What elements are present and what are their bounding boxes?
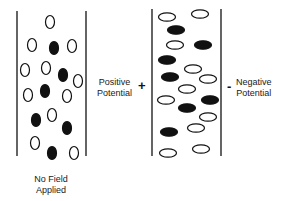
- open-particle-icon: [179, 85, 196, 93]
- open-particle-icon: [200, 75, 217, 83]
- open-particle-icon: [192, 10, 209, 18]
- open-particle-icon: [167, 41, 184, 49]
- filled-particle-icon: [50, 42, 59, 55]
- negative-label-line-2: Potential: [236, 88, 272, 99]
- positive-potential-label: Positive Potential: [97, 77, 132, 99]
- filled-particle-icon: [63, 122, 72, 135]
- positive-label-line-1: Positive: [97, 77, 132, 88]
- no-field-label-line-1: No Field: [33, 174, 69, 185]
- open-particle-icon: [185, 65, 202, 73]
- field-applied-panel: [152, 9, 221, 157]
- open-particle-icon: [193, 145, 210, 153]
- filled-particle-icon: [159, 56, 176, 64]
- positive-label-line-2: Potential: [97, 88, 132, 99]
- open-particle-icon: [21, 64, 30, 77]
- negative-potential-label: Negative Potential: [236, 77, 272, 99]
- open-particle-icon: [42, 62, 51, 75]
- filled-particle-icon: [48, 147, 57, 160]
- open-particle-icon: [188, 124, 205, 132]
- filled-particle-icon: [202, 96, 219, 104]
- open-particle-icon: [63, 90, 72, 103]
- filled-particle-icon: [168, 26, 185, 34]
- filled-particle-icon: [195, 41, 212, 49]
- filled-particle-icon: [32, 114, 41, 127]
- open-particle-icon: [28, 39, 37, 52]
- plus-sign-icon: +: [138, 79, 146, 92]
- open-particle-icon: [24, 89, 33, 102]
- open-particle-icon: [160, 149, 177, 157]
- diagram-canvas: [0, 0, 286, 201]
- filled-particle-icon: [179, 104, 196, 112]
- no-field-label: No Field Applied: [33, 174, 69, 196]
- open-particle-icon: [48, 109, 57, 122]
- filled-particle-icon: [41, 85, 50, 98]
- negative-label-line-1: Negative: [236, 77, 272, 88]
- open-particle-icon: [158, 96, 175, 104]
- filled-particle-icon: [59, 69, 68, 82]
- open-particle-icon: [74, 75, 83, 88]
- open-particle-icon: [46, 16, 55, 29]
- filled-particle-icon: [162, 73, 179, 81]
- open-particle-icon: [200, 113, 217, 121]
- open-particle-icon: [159, 13, 176, 21]
- open-particle-icon: [70, 147, 79, 160]
- open-particle-icon: [31, 137, 40, 150]
- no-field-label-line-2: Applied: [33, 185, 69, 196]
- open-particle-icon: [68, 40, 77, 53]
- minus-sign-icon: -: [227, 80, 231, 93]
- filled-particle-icon: [161, 128, 178, 136]
- no-field-panel: [17, 11, 86, 160]
